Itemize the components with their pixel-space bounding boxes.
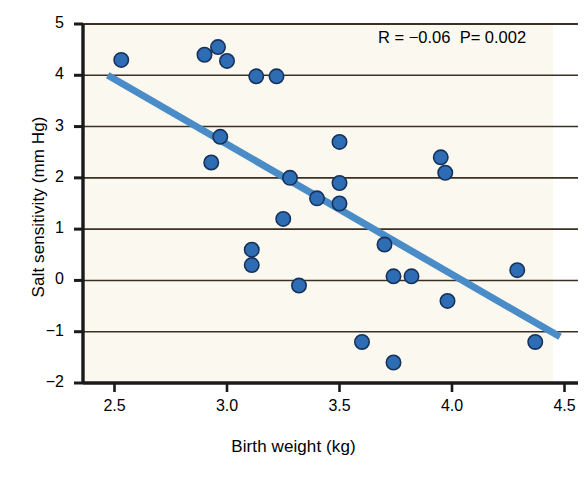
data-point — [249, 69, 263, 83]
y-tick-label: 1 — [34, 219, 64, 237]
x-tick-label: 3.0 — [197, 397, 257, 415]
data-point — [204, 155, 218, 169]
data-point — [332, 196, 346, 210]
correlation-annotation: R = −0.06 P= 0.002 — [378, 28, 526, 47]
data-point — [386, 355, 400, 369]
data-point — [292, 278, 306, 292]
y-tick-label: 5 — [34, 14, 64, 32]
y-tick-label: 2 — [34, 168, 64, 186]
data-point — [528, 335, 542, 349]
data-point — [269, 69, 283, 83]
y-tick-label: 4 — [34, 65, 64, 83]
data-point — [434, 150, 448, 164]
data-point — [114, 53, 128, 67]
x-tick-label: 2.5 — [85, 397, 145, 415]
data-point — [276, 212, 290, 226]
data-point — [440, 294, 454, 308]
x-tick-label: 3.5 — [310, 397, 370, 415]
data-point — [510, 263, 524, 277]
data-point — [332, 135, 346, 149]
x-tick-label: 4.5 — [535, 397, 587, 415]
x-tick-label: 4.0 — [422, 397, 482, 415]
y-tick-label: −2 — [34, 373, 64, 391]
data-point — [377, 237, 391, 251]
data-point — [245, 258, 259, 272]
data-point — [213, 130, 227, 144]
data-point — [197, 48, 211, 62]
data-point — [332, 176, 346, 190]
data-point — [404, 269, 418, 283]
y-tick-label: −1 — [34, 322, 64, 340]
data-point — [211, 40, 225, 54]
y-tick-label: 0 — [34, 270, 64, 288]
y-tick-label: 3 — [34, 117, 64, 135]
data-point — [438, 166, 452, 180]
data-point — [245, 242, 259, 256]
scatter-plot-figure: R = −0.06 P= 0.002 Salt sensitivity (mm … — [0, 0, 587, 479]
data-point — [386, 269, 400, 283]
x-axis-label: Birth weight (kg) — [0, 437, 587, 457]
data-point — [310, 191, 324, 205]
data-point — [355, 335, 369, 349]
data-point — [283, 171, 297, 185]
data-point — [220, 54, 234, 68]
